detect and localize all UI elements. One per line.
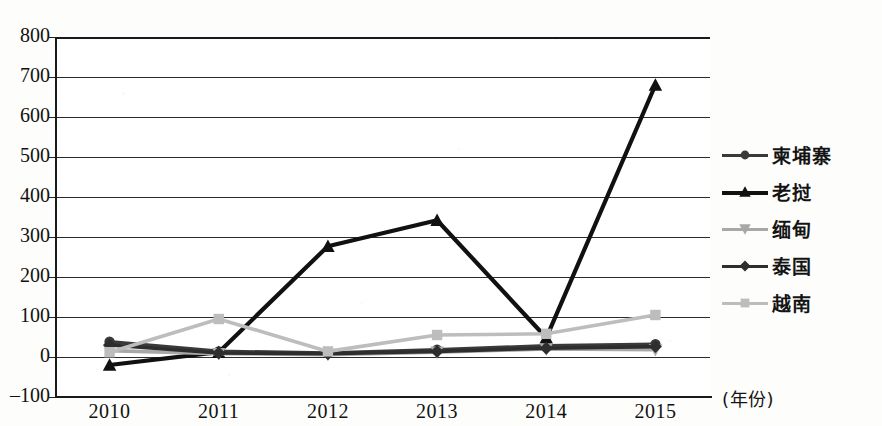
gridline: [55, 157, 710, 158]
legend-item-label: 老挝: [772, 178, 812, 205]
y-axis-tick-label: 300: [0, 224, 50, 247]
legend-symbol: [739, 149, 751, 161]
legend-item-label: 柬埔寨: [772, 141, 832, 168]
plot-area: [55, 37, 710, 397]
x-axis-label: (年份): [722, 385, 774, 411]
chart-figure: –1000100200300400500600700800 2010201120…: [0, 0, 882, 426]
legend-item-label: 越南: [772, 289, 812, 316]
legend-item-4[interactable]: 泰国: [722, 247, 872, 284]
legend-symbol: [739, 260, 751, 272]
gridline: [55, 77, 710, 78]
gridline: [55, 237, 710, 238]
triangle-marker-icon: [722, 184, 768, 200]
gridline: [55, 117, 710, 118]
gridline: [55, 277, 710, 278]
legend-item-3[interactable]: 缅甸: [722, 210, 872, 247]
legend-symbol: [739, 186, 751, 198]
legend-item-2[interactable]: 老挝: [722, 173, 872, 210]
x-axis-tick-label: 2014: [501, 400, 591, 423]
x-axis-line: [55, 396, 712, 398]
y-axis-tick-label: 800: [0, 24, 50, 47]
x-axis-tick-label: 2011: [174, 400, 264, 423]
gridline: [55, 197, 710, 198]
legend-symbol: [739, 223, 751, 235]
legend-item-label: 泰国: [772, 252, 812, 279]
diamond-marker-icon: [722, 258, 768, 274]
legend-item-label: 缅甸: [772, 215, 812, 242]
x-axis-tick-label: 2012: [283, 400, 373, 423]
x-axis-tick-label: 2013: [392, 400, 482, 423]
y-axis-tick-label: 0: [0, 344, 50, 367]
chart-legend: 柬埔寨老挝缅甸泰国越南: [722, 136, 872, 321]
y-axis-tick-label: 200: [0, 264, 50, 287]
cross-marker-icon: [722, 221, 768, 237]
gridline: [55, 357, 710, 358]
y-axis-line: [55, 37, 57, 398]
y-axis-tick-label: 600: [0, 104, 50, 127]
y-axis-tick-label: 500: [0, 144, 50, 167]
legend-symbol: [739, 297, 751, 309]
legend-item-1[interactable]: 柬埔寨: [722, 136, 872, 173]
y-axis-tick-label: 400: [0, 184, 50, 207]
x-axis-tick-label: 2010: [65, 400, 155, 423]
circle-marker-icon: [722, 147, 768, 163]
y-axis-tick-label: 100: [0, 304, 50, 327]
x-axis-tick-label: 2015: [610, 400, 700, 423]
gridline: [55, 37, 710, 39]
gridline: [55, 317, 710, 318]
y-axis-tick-label: –100: [0, 384, 50, 407]
legend-item-5[interactable]: 越南: [722, 284, 872, 321]
square-marker-icon: [722, 295, 768, 311]
y-axis-tick-label: 700: [0, 64, 50, 87]
